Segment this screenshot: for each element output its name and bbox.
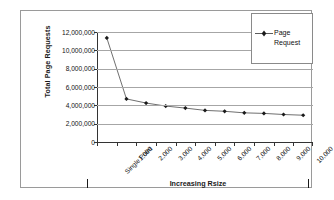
x-axis-tick-label: 3,000 bbox=[177, 145, 194, 162]
data-point-marker bbox=[281, 112, 285, 116]
y-axis-tick-mark bbox=[94, 69, 97, 70]
data-point-marker bbox=[183, 106, 187, 110]
y-axis-tick-label: 8,000,000 bbox=[47, 65, 95, 72]
gridline bbox=[97, 69, 313, 70]
x-axis-line bbox=[97, 142, 313, 143]
y-axis-tick-labels: 12,000,00010,000,0008,000,0006,000,0004,… bbox=[47, 28, 95, 146]
legend: Page Request bbox=[251, 13, 313, 64]
y-axis-tick-mark bbox=[94, 32, 97, 33]
data-point-marker bbox=[242, 111, 246, 115]
x-axis-tick-label: 1,000 bbox=[137, 145, 154, 162]
data-point-marker bbox=[124, 97, 128, 101]
y-axis-tick-label: 4,000,000 bbox=[47, 102, 95, 109]
data-point-marker bbox=[301, 113, 305, 117]
x-axis-tick-labels: Single Point1,0002,0003,0004,0005,0006,0… bbox=[97, 145, 327, 179]
x-axis-tick-label: 8,000 bbox=[275, 145, 292, 162]
data-point-marker bbox=[105, 36, 109, 40]
x-axis-tick-label: 5,000 bbox=[216, 145, 233, 162]
y-axis-tick-label: 2,000,000 bbox=[47, 120, 95, 127]
y-axis-tick-label: 12,000,000 bbox=[47, 29, 95, 36]
gridline bbox=[97, 105, 313, 106]
x-axis-tick-label: 9,000 bbox=[294, 145, 311, 162]
gridline bbox=[97, 87, 313, 88]
x-axis-title-row: Increasing Rsize bbox=[87, 177, 309, 189]
data-point-marker bbox=[262, 111, 266, 115]
y-axis-tick-mark bbox=[94, 124, 97, 125]
axis-end-mark-left bbox=[87, 179, 88, 188]
y-axis-tick-label: 10,000,000 bbox=[47, 47, 95, 54]
y-axis-tick-label: 6,000,000 bbox=[47, 84, 95, 91]
x-axis-tick-label: 4,000 bbox=[196, 145, 213, 162]
x-axis-title: Increasing Rsize bbox=[170, 179, 227, 188]
legend-marker-icon bbox=[255, 29, 273, 38]
y-axis-tick-mark bbox=[94, 87, 97, 88]
axis-end-mark-right bbox=[308, 179, 309, 188]
chart-container: Total Page Requests 12,000,00010,000,000… bbox=[20, 10, 312, 188]
x-axis-tick-label: 7,000 bbox=[255, 145, 272, 162]
x-axis-tick-label: 6,000 bbox=[235, 145, 252, 162]
x-axis-tick-label: 2,000 bbox=[157, 145, 174, 162]
legend-item-page-request: Page Request bbox=[255, 28, 300, 47]
y-axis-tick-mark bbox=[94, 50, 97, 51]
gridline bbox=[97, 124, 313, 125]
x-axis-tick-label: 10,000 bbox=[315, 145, 334, 164]
data-point-marker bbox=[223, 109, 227, 113]
y-axis-tick-mark bbox=[94, 105, 97, 106]
data-point-marker bbox=[203, 108, 207, 112]
legend-label: Page Request bbox=[274, 28, 300, 47]
y-axis-tick-label: 0 bbox=[47, 139, 95, 146]
